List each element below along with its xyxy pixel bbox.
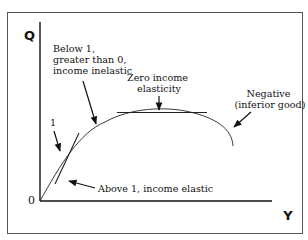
above-one-arrow-icon bbox=[69, 181, 95, 188]
origin-label: 0 bbox=[28, 194, 35, 207]
negative-elasticity-arrow-icon bbox=[234, 112, 251, 127]
below-one-label: Below 1, greater than 0, income inelasti… bbox=[53, 43, 132, 76]
x-axis-label: Y bbox=[282, 208, 293, 223]
zero-elasticity-label: Zero income elasticity bbox=[127, 72, 191, 94]
negative-elasticity-label: Negative (inferior good) bbox=[235, 88, 306, 110]
income-elasticity-diagram: Q Y 0 1 Below 1, greater than 0, income … bbox=[0, 0, 308, 240]
y-axis-label: Q bbox=[24, 28, 35, 43]
unit-elasticity-tangent-line bbox=[55, 133, 79, 184]
unit-elasticity-label: 1 bbox=[50, 117, 56, 128]
unit-elasticity-arrow-icon bbox=[54, 131, 60, 151]
below-one-arrow-icon bbox=[83, 81, 96, 124]
above-one-label: Above 1, income elastic bbox=[97, 183, 213, 194]
